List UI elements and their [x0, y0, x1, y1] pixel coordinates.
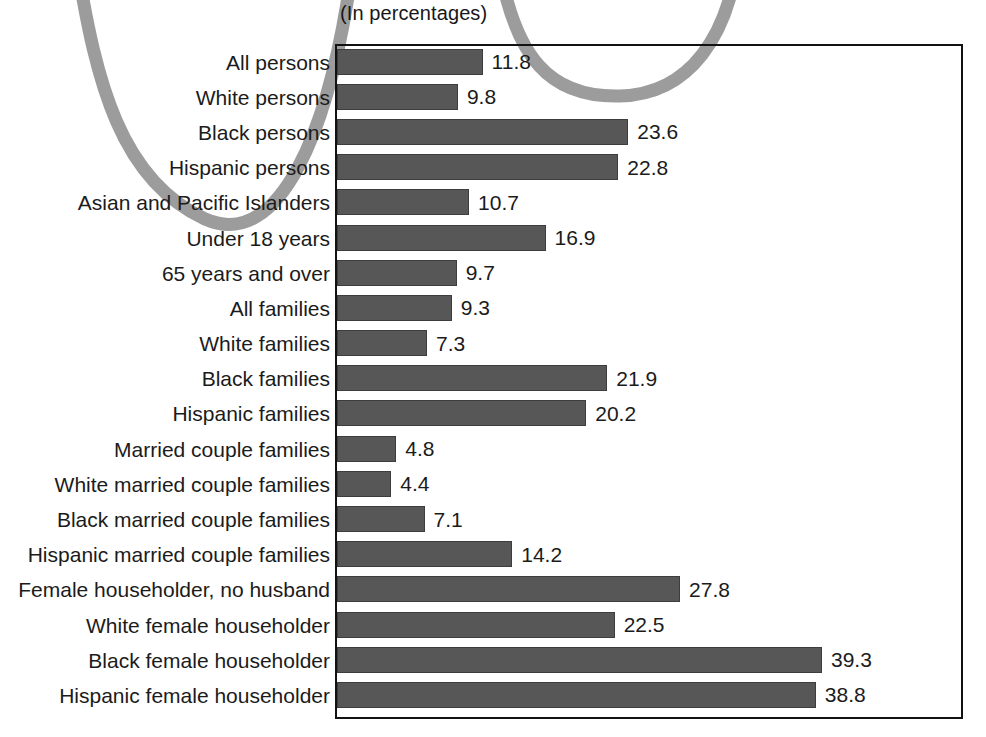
bar-value-label: 22.8	[627, 157, 668, 178]
bar-category-label: 65 years and over	[162, 262, 330, 283]
bar-value-label: 21.9	[616, 368, 657, 389]
bar	[337, 576, 680, 602]
bar-row: White female householder22.5	[0, 607, 986, 642]
bar-category-label: Under 18 years	[186, 227, 330, 248]
bar-wrapper: 4.8	[337, 436, 434, 462]
bar-wrapper: 10.7	[337, 189, 519, 215]
bar-row: All persons11.8	[0, 44, 986, 79]
bar-category-label: Hispanic married couple families	[28, 544, 330, 565]
bar-wrapper: 4.4	[337, 471, 429, 497]
bar-wrapper: 16.9	[337, 225, 595, 251]
bar-category-label: White female householder	[86, 614, 330, 635]
bar-row: White families7.3	[0, 326, 986, 361]
bar-category-label: All families	[230, 297, 330, 318]
bar	[337, 295, 452, 321]
bar-category-label: All persons	[226, 51, 330, 72]
bar	[337, 225, 546, 251]
bar-value-label: 9.3	[461, 297, 490, 318]
bar-value-label: 20.2	[595, 403, 636, 424]
bar-row: All families9.3	[0, 290, 986, 325]
bar-wrapper: 22.8	[337, 154, 668, 180]
bar-wrapper: 39.3	[337, 647, 872, 673]
bar-row: Female householder, no husband27.8	[0, 572, 986, 607]
bar-row: White married couple families4.4	[0, 466, 986, 501]
chart-subtitle: (In percentages)	[340, 2, 487, 25]
bar-row: 65 years and over9.7	[0, 255, 986, 290]
bar-category-label: Hispanic families	[172, 403, 330, 424]
bar-row: Married couple families4.8	[0, 431, 986, 466]
bar	[337, 400, 586, 426]
bar	[337, 330, 427, 356]
bar-wrapper: 14.2	[337, 541, 562, 567]
bar-value-label: 4.4	[400, 473, 429, 494]
bar-value-label: 9.7	[466, 262, 495, 283]
bar-value-label: 38.8	[825, 684, 866, 705]
bar-category-label: White married couple families	[55, 473, 330, 494]
bar-value-label: 9.8	[467, 86, 496, 107]
bar-category-label: Asian and Pacific Islanders	[78, 192, 330, 213]
bar-category-label: Hispanic female householder	[59, 684, 330, 705]
bar-row: Black married couple families7.1	[0, 501, 986, 536]
bar-row: Under 18 years16.9	[0, 220, 986, 255]
bar-wrapper: 38.8	[337, 682, 866, 708]
bar-row: Hispanic families20.2	[0, 396, 986, 431]
bar-row: Hispanic married couple families14.2	[0, 537, 986, 572]
bar-value-label: 39.3	[831, 649, 872, 670]
bar-wrapper: 7.3	[337, 330, 465, 356]
bar-value-label: 23.6	[637, 121, 678, 142]
bar	[337, 436, 396, 462]
bar	[337, 647, 822, 673]
bar-category-label: Black female householder	[88, 649, 330, 670]
bar-value-label: 7.3	[436, 333, 465, 354]
bar	[337, 682, 816, 708]
bar-rows: All persons11.8White persons9.8Black per…	[0, 44, 986, 713]
bar-value-label: 4.8	[405, 438, 434, 459]
chart-page: (In percentages) All persons11.8White pe…	[0, 0, 986, 737]
bar	[337, 189, 469, 215]
bar-wrapper: 9.8	[337, 84, 496, 110]
bar	[337, 49, 483, 75]
bar-category-label: Hispanic persons	[169, 157, 330, 178]
bar-value-label: 16.9	[555, 227, 596, 248]
bar-wrapper: 22.5	[337, 612, 665, 638]
bar-value-label: 7.1	[434, 509, 463, 530]
bar-category-label: Married couple families	[114, 438, 330, 459]
bar	[337, 119, 628, 145]
bar-wrapper: 9.3	[337, 295, 490, 321]
bar	[337, 365, 607, 391]
bar-value-label: 27.8	[689, 579, 730, 600]
bar-wrapper: 9.7	[337, 260, 495, 286]
bar	[337, 154, 618, 180]
bar	[337, 612, 615, 638]
bar-wrapper: 7.1	[337, 506, 463, 532]
bar	[337, 541, 512, 567]
bar-row: Black female householder39.3	[0, 642, 986, 677]
bar-value-label: 10.7	[478, 192, 519, 213]
bar-wrapper: 21.9	[337, 365, 657, 391]
bar-wrapper: 20.2	[337, 400, 636, 426]
bar-row: White persons9.8	[0, 79, 986, 114]
bar-value-label: 22.5	[624, 614, 665, 635]
bar-row: Black persons23.6	[0, 114, 986, 149]
bar-wrapper: 11.8	[337, 49, 531, 75]
bar-category-label: White families	[199, 333, 330, 354]
bar	[337, 471, 391, 497]
bar-wrapper: 27.8	[337, 576, 730, 602]
bar-category-label: White persons	[196, 86, 330, 107]
bar-value-label: 11.8	[492, 51, 531, 72]
bar-category-label: Female householder, no husband	[18, 579, 330, 600]
bar	[337, 260, 457, 286]
bar-row: Hispanic female householder38.8	[0, 677, 986, 712]
bar	[337, 84, 458, 110]
bar-row: Asian and Pacific Islanders10.7	[0, 185, 986, 220]
bar-row: Hispanic persons22.8	[0, 150, 986, 185]
bar-category-label: Black married couple families	[57, 509, 330, 530]
bar-value-label: 14.2	[521, 544, 562, 565]
bar-category-label: Black persons	[198, 121, 330, 142]
bar-row: Black families21.9	[0, 361, 986, 396]
bar-wrapper: 23.6	[337, 119, 678, 145]
bar	[337, 506, 425, 532]
bar-category-label: Black families	[202, 368, 330, 389]
